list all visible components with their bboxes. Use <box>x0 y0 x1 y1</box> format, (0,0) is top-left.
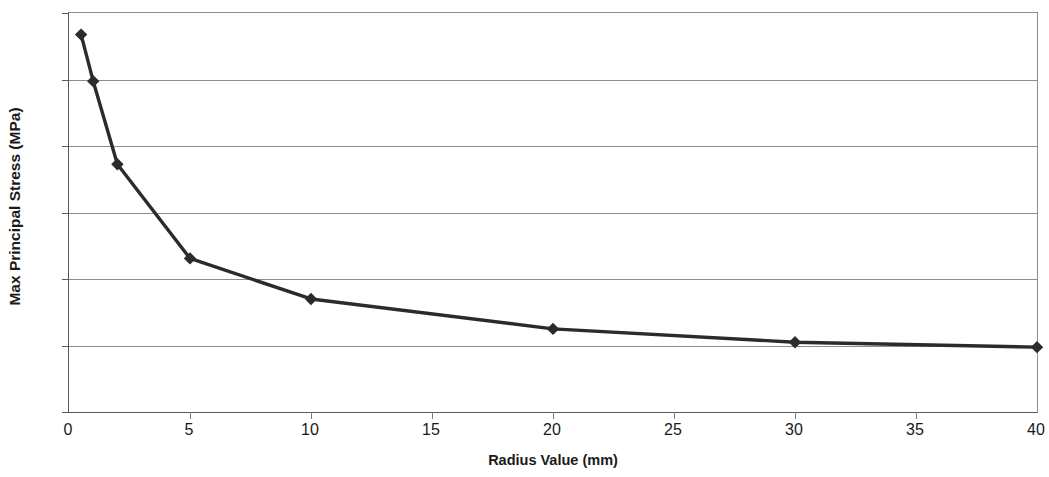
x-tick-label-text: 30 <box>785 421 803 439</box>
x-tick-mark <box>795 412 796 419</box>
x-tick-mark <box>674 412 675 419</box>
x-tick-label-text: 0 <box>64 421 73 439</box>
y-tick-mark <box>62 13 69 14</box>
data-point-marker <box>87 75 99 87</box>
series-line <box>81 35 1037 348</box>
x-tick-label-text: 25 <box>664 421 682 439</box>
y-tick-mark <box>62 146 69 147</box>
x-axis-title: Radius Value (mm) <box>68 452 1038 468</box>
x-tick-label-text: 10 <box>301 421 319 439</box>
x-tick-label-text: 15 <box>422 421 440 439</box>
data-point-marker <box>305 293 317 305</box>
y-tick-mark <box>62 346 69 347</box>
y-tick-mark <box>62 213 69 214</box>
data-point-marker <box>1031 341 1043 353</box>
x-tick-mark <box>190 412 191 419</box>
x-tick-mark <box>916 412 917 419</box>
data-point-marker <box>75 28 87 40</box>
y-tick-mark <box>62 80 69 81</box>
data-point-marker <box>789 336 801 348</box>
y-axis-title: Max Principal Stress (MPa) <box>4 0 26 413</box>
y-tick-mark <box>62 279 69 280</box>
x-tick-mark <box>311 412 312 419</box>
chart-figure: Max Principal Stress (MPa) Radius Value … <box>0 0 1049 477</box>
x-tick-label-text: 40 <box>1027 421 1045 439</box>
series-layer <box>69 13 1037 412</box>
y-tick-mark <box>62 412 69 413</box>
x-tick-mark <box>432 412 433 419</box>
x-tick-label-text: 20 <box>543 421 561 439</box>
x-tick-mark <box>553 412 554 419</box>
plot-area <box>68 12 1038 413</box>
x-tick-label-text: 35 <box>906 421 924 439</box>
data-point-marker <box>547 323 559 335</box>
x-tick-label-text: 5 <box>185 421 194 439</box>
